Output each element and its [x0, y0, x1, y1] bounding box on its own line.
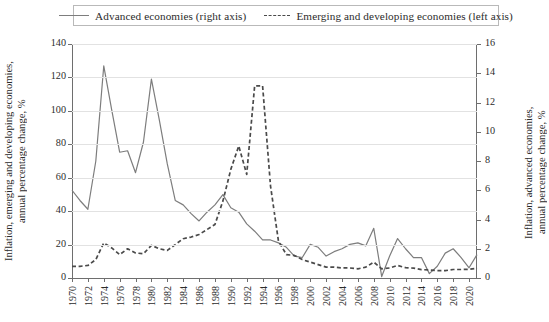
left-tick-label: 60	[42, 171, 66, 182]
x-tick-label: 1998	[289, 286, 300, 306]
x-tick-mark	[342, 278, 343, 282]
x-tick-mark	[453, 278, 454, 282]
x-tick-label: 1976	[115, 286, 126, 306]
x-tick-label: 1988	[210, 286, 221, 306]
x-tick-mark	[199, 278, 200, 282]
x-tick-mark	[151, 278, 152, 282]
left-tick-mark	[68, 245, 72, 246]
right-tick-label: 4	[485, 213, 490, 224]
right-tick-mark	[477, 44, 481, 45]
x-tick-label: 1978	[131, 286, 142, 306]
x-tick-mark	[247, 278, 248, 282]
left-tick-mark	[68, 44, 72, 45]
x-tick-mark	[437, 278, 438, 282]
gridline	[72, 111, 477, 112]
left-tick-label: 140	[42, 37, 66, 48]
left-tick-label: 120	[42, 70, 66, 81]
legend-item-advanced: Advanced economies (right axis)	[59, 10, 246, 22]
right-tick-mark	[477, 161, 481, 162]
x-tick-label: 1986	[194, 286, 205, 306]
x-tick-label: 1982	[162, 286, 173, 306]
x-tick-mark	[88, 278, 89, 282]
legend-label-advanced: Advanced economies (right axis)	[95, 10, 246, 22]
x-tick-label: 2020	[464, 286, 475, 306]
x-tick-mark	[120, 278, 121, 282]
x-tick-mark	[406, 278, 407, 282]
x-tick-mark	[358, 278, 359, 282]
right-tick-mark	[477, 278, 481, 279]
gridline	[72, 144, 477, 145]
gridline	[72, 178, 477, 179]
gridline	[72, 245, 477, 246]
plot-area: 0204060801001201400246810121416197019721…	[72, 44, 477, 278]
series-layer	[72, 44, 477, 278]
legend-swatch-dashed-icon	[264, 15, 290, 16]
gridline	[72, 44, 477, 45]
x-tick-mark	[136, 278, 137, 282]
x-tick-label: 2008	[369, 286, 380, 306]
x-tick-label: 2014	[416, 286, 427, 306]
right-tick-mark	[477, 190, 481, 191]
x-tick-mark	[167, 278, 168, 282]
x-tick-mark	[421, 278, 422, 282]
x-tick-mark	[278, 278, 279, 282]
x-tick-label: 2016	[432, 286, 443, 306]
x-tick-mark	[326, 278, 327, 282]
x-tick-label: 1970	[67, 286, 78, 306]
x-tick-mark	[263, 278, 264, 282]
right-tick-label: 0	[485, 271, 490, 282]
right-tick-label: 6	[485, 183, 490, 194]
gridline	[72, 77, 477, 78]
x-tick-label: 1972	[83, 286, 94, 306]
x-tick-label: 1996	[273, 286, 284, 306]
left-tick-label: 80	[42, 137, 66, 148]
x-tick-mark	[310, 278, 311, 282]
x-tick-label: 1994	[258, 286, 269, 306]
right-tick-mark	[477, 249, 481, 250]
left-tick-label: 40	[42, 204, 66, 215]
left-tick-label: 0	[42, 271, 66, 282]
x-tick-label: 2012	[401, 286, 412, 306]
right-tick-label: 10	[485, 125, 495, 136]
chart-legend: Advanced economies (right axis) Emerging…	[73, 5, 499, 26]
x-tick-mark	[374, 278, 375, 282]
x-tick-label: 2010	[385, 286, 396, 306]
x-tick-label: 1980	[146, 286, 157, 306]
x-tick-mark	[104, 278, 105, 282]
left-tick-mark	[68, 144, 72, 145]
right-tick-mark	[477, 103, 481, 104]
legend-swatch-solid-icon	[59, 15, 89, 16]
right-axis-title: Inflation, advanced economies, annual pe…	[522, 60, 548, 285]
x-tick-label: 2002	[321, 286, 332, 306]
x-tick-label: 1984	[178, 286, 189, 306]
x-tick-mark	[390, 278, 391, 282]
left-tick-mark	[68, 211, 72, 212]
x-axis-line	[72, 278, 477, 279]
x-tick-mark	[469, 278, 470, 282]
x-tick-mark	[215, 278, 216, 282]
left-tick-mark	[68, 178, 72, 179]
x-tick-label: 2004	[337, 286, 348, 306]
x-tick-label: 1992	[242, 286, 253, 306]
right-tick-mark	[477, 220, 481, 221]
chart-root: Advanced economies (right axis) Emerging…	[0, 0, 549, 322]
gridline	[72, 211, 477, 212]
right-tick-label: 12	[485, 96, 495, 107]
x-tick-label: 1990	[226, 286, 237, 306]
x-tick-label: 2000	[305, 286, 316, 306]
x-tick-mark	[72, 278, 73, 282]
right-tick-label: 2	[485, 242, 490, 253]
right-tick-mark	[477, 132, 481, 133]
legend-label-emerging: Emerging and developing economies (left …	[296, 10, 512, 22]
left-tick-mark	[68, 111, 72, 112]
x-tick-label: 2006	[353, 286, 364, 306]
x-tick-mark	[183, 278, 184, 282]
legend-item-emerging: Emerging and developing economies (left …	[264, 10, 512, 22]
x-tick-label: 2018	[448, 286, 459, 306]
x-tick-label: 1974	[99, 286, 110, 306]
right-tick-label: 8	[485, 154, 490, 165]
left-tick-label: 20	[42, 238, 66, 249]
x-tick-mark	[294, 278, 295, 282]
right-tick-label: 16	[485, 37, 495, 48]
x-tick-mark	[231, 278, 232, 282]
